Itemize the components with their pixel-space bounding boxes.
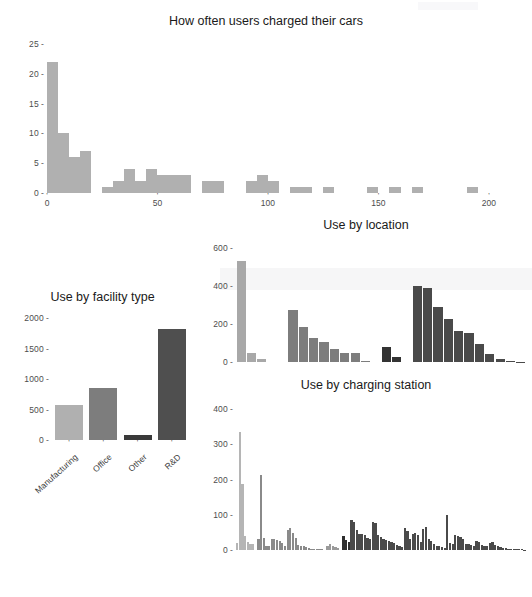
plot-area-use-by-location: 0-200-400-600- [236,240,526,362]
x-tick-label: '150 [371,193,385,208]
location-bar [382,347,391,362]
histogram-bar [290,187,301,193]
location-bar [475,344,484,362]
y-tick-label: 20- [29,69,47,79]
histogram-bar [180,175,191,193]
location-bar [506,361,515,362]
location-bar [464,333,473,362]
location-bar [247,353,256,362]
location-bar [413,286,422,362]
histogram-bar [102,187,113,193]
facility-bar [55,405,83,440]
x-tick-mark: ' [137,440,139,445]
location-bar [309,338,318,362]
y-tick-label: 0- [223,545,236,555]
histogram-bar [389,187,400,193]
location-bar [433,307,442,362]
location-bar [392,357,401,362]
bars-charge-frequency [47,38,511,193]
plot-area-charge-frequency: 0-5-10-15-20-25- '0'50'100'150'200 [47,38,511,193]
y-tick-label: 600- [213,243,236,253]
y-tick-label: 1500- [24,344,52,354]
facility-category-label: R&D [163,452,183,471]
y-tick-label: 200- [213,319,236,329]
plot-area-use-by-charging-station: 0-100-200-300-400- [236,402,526,550]
y-tick-label: 0- [223,357,236,367]
location-bar [361,361,370,362]
histogram-bar [202,181,213,193]
histogram-bar [169,175,180,193]
x-tick-mark: ' [68,440,70,445]
histogram-bar [213,181,224,193]
location-bar [454,331,463,362]
plot-area-facility-type: 0-500-1000-1500-2000- '''' Manufacturing… [52,312,189,440]
location-bar [257,359,266,362]
histogram-bar [69,157,80,193]
location-bar [237,261,246,362]
chart-title-charge-frequency: How often users charged their cars [0,14,532,28]
histogram-bar [47,62,58,193]
chart-use-by-facility-type: Use by facility type 0-500-1000-1500-200… [0,290,205,590]
location-bar [330,349,339,362]
location-bar [288,310,297,362]
facility-bar [89,388,117,440]
y-tick-label: 0- [39,435,52,445]
y-tick-label: 5- [34,158,47,168]
x-tick-label: '0 [45,193,50,208]
y-tick-label: 1000- [24,374,52,384]
y-tick-label: 300- [213,439,236,449]
y-tick-label: 2000- [24,313,52,323]
facility-category-label: Manufacturing [33,452,80,495]
histogram-bar [135,181,146,193]
facility-category-label: Other [126,452,148,474]
location-bar [444,319,453,362]
y-tick-label: 10- [29,128,47,138]
chart-title-facility-type: Use by facility type [0,290,205,304]
histogram-bar [146,169,157,193]
bars-facility-type [52,312,189,440]
y-tick-label: 500- [29,405,52,415]
location-bar [496,359,505,362]
location-bar [423,288,432,362]
station-bar [337,548,339,550]
x-tick-label: '50 [153,193,162,208]
chart-use-by-location: Use by location 0-200-400-600- [200,218,532,378]
station-bar [321,549,323,550]
histogram-bar [323,187,334,193]
y-tick-label: 15- [29,99,47,109]
facility-bar [158,329,186,440]
bars-use-by-location [236,240,526,362]
histogram-bar [113,181,124,193]
x-tick-label: '100 [261,193,275,208]
histogram-bar [412,187,423,193]
chart-charge-frequency: How often users charged their cars 0-5-1… [0,14,532,219]
station-bar [252,544,254,550]
histogram-bar [124,169,135,193]
x-tick-mark: ' [103,440,105,445]
chart-title-use-by-charging-station: Use by charging station [200,378,532,392]
histogram-bar [246,181,257,193]
y-tick-label: 400- [213,281,236,291]
histogram-bar [268,181,279,193]
y-tick-label: 400- [213,404,236,414]
histogram-bar [467,187,478,193]
histogram-bar [301,187,312,193]
bars-use-by-charging-station [236,402,526,550]
y-tick-label: 100- [213,510,236,520]
x-tick-label: '200 [482,193,496,208]
y-tick-label: 200- [213,475,236,485]
location-bar [299,327,308,362]
chart-title-use-by-location: Use by location [200,218,532,232]
histogram-bar [80,151,91,193]
location-bar [485,354,494,362]
location-bar [340,353,349,362]
location-bar [319,342,328,362]
location-bar [351,353,360,362]
histogram-bar [157,175,168,193]
facility-category-label: Office [91,452,114,474]
chart-use-by-charging-station: Use by charging station 0-100-200-300-40… [200,378,532,593]
x-tick-mark: ' [171,440,173,445]
scan-artifact-top [418,2,478,10]
y-tick-label: 25- [29,39,47,49]
histogram-bar [58,133,69,193]
